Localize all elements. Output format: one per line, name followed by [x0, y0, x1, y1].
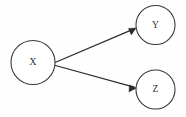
node-y: Y [136, 6, 175, 45]
node-z: Z [136, 70, 175, 109]
node-x-label: X [29, 57, 36, 67]
edge-x-to-y [55, 28, 136, 63]
edge-x-to-z-line [56, 66, 135, 88]
node-y-label: Y [152, 20, 159, 30]
edge-x-to-z [56, 66, 137, 92]
edge-x-to-y-line [55, 29, 134, 62]
directed-graph: X Y Z [0, 0, 186, 117]
edge-x-to-y-arrowhead [128, 28, 136, 35]
node-z-label: Z [152, 84, 158, 94]
node-x: X [11, 41, 55, 85]
diagram-canvas: X Y Z [0, 0, 186, 117]
